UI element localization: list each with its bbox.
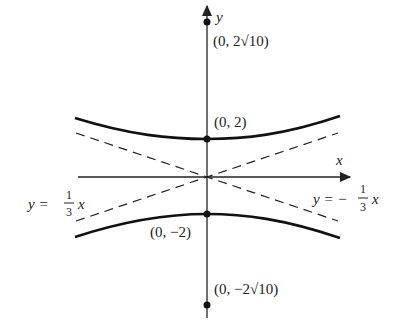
vertex-top-point xyxy=(204,136,211,143)
svg-text:1: 1 xyxy=(360,182,366,196)
focus-bottom-point xyxy=(204,302,211,309)
svg-text:x: x xyxy=(371,191,379,207)
svg-text:1: 1 xyxy=(66,188,72,202)
focus-bottom-label: (0, −2√10) xyxy=(214,281,278,298)
svg-text:3: 3 xyxy=(360,200,366,214)
focus-top-point xyxy=(204,19,211,26)
focus-top-label: (0, 2√10) xyxy=(213,33,269,50)
asymptote-left-label: y = 1 3 x xyxy=(26,188,85,219)
vertex-top-label: (0, 2) xyxy=(214,114,247,131)
vertex-bottom-label: (0, −2) xyxy=(150,224,191,241)
svg-text:x: x xyxy=(77,196,85,212)
svg-text:3: 3 xyxy=(66,205,72,219)
svg-text:y = −: y = − xyxy=(311,191,347,207)
asymptote-right-label: y = − 1 3 x xyxy=(311,182,379,214)
y-axis-label: y xyxy=(214,9,223,25)
vertex-bottom-point xyxy=(204,211,211,218)
x-axis-label: x xyxy=(335,152,343,168)
hyperbola-diagram: y x (0, 2√10) (0, 2) (0, −2) (0, −2√10) … xyxy=(0,0,398,333)
svg-text:y =: y = xyxy=(26,196,49,212)
